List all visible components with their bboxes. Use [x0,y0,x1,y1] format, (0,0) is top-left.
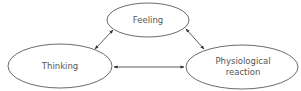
node-physiological-reaction: Physiological reaction [186,45,298,89]
node-thinking: Thinking [8,44,112,88]
physiological-label-line1: Physiological [215,56,270,66]
feeling-label: Feeling [133,15,163,25]
node-feeling: Feeling [107,3,189,37]
thinking-label: Thinking [41,61,78,71]
arrow-thinking-feeling [95,30,113,49]
diagram: Feeling Thinking Physiological reaction [0,0,301,91]
physiological-label-line2: reaction [226,67,261,77]
arrow-feeling-physiological [186,29,204,49]
